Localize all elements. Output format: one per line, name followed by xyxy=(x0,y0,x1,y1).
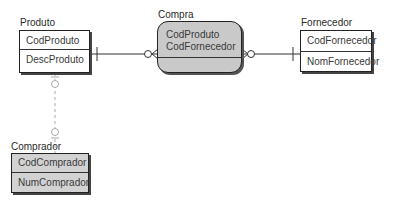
relationship-divider xyxy=(158,57,241,58)
zero-circle-icon xyxy=(52,81,59,88)
entity-label-fornecedor: Fornecedor xyxy=(301,17,352,29)
attribute-codfornecedor: CodFornecedor xyxy=(301,35,371,47)
zero-circle-icon xyxy=(52,129,59,136)
entity-comprador[interactable]: CodComprador NumComprador xyxy=(11,153,89,193)
entity-label-produto: Produto xyxy=(20,17,55,29)
attribute-codproduto: CodProduto xyxy=(166,29,219,41)
attribute-codcomprador: CodComprador xyxy=(12,157,88,169)
entity-fornecedor[interactable]: CodFornecedor NomFornecedor xyxy=(300,30,372,72)
relationship-compra[interactable]: CodProduto CodFornecedor xyxy=(157,21,242,73)
entity-label-comprador: Comprador xyxy=(11,141,61,153)
attribute-codproduto: CodProduto xyxy=(20,35,89,47)
attribute-numcomprador: NumComprador xyxy=(12,177,88,189)
relationship-label-compra: Compra xyxy=(158,9,194,21)
attribute-descproduto: DescProduto xyxy=(20,54,89,66)
entity-divider xyxy=(20,49,89,50)
entity-divider xyxy=(12,172,88,173)
entity-produto[interactable]: CodProduto DescProduto xyxy=(19,30,90,73)
entity-divider xyxy=(301,51,371,52)
zero-circle-icon xyxy=(248,51,255,58)
attribute-nomfornecedor: NomFornecedor xyxy=(301,56,371,68)
zero-circle-icon xyxy=(145,51,152,58)
attribute-codfornecedor: CodFornecedor xyxy=(166,41,235,53)
